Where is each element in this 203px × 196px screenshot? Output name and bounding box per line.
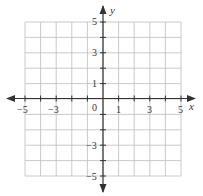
y-tick-label-neg3: −3 bbox=[86, 140, 97, 151]
y-axis-up-arrow-icon bbox=[100, 5, 107, 14]
x-tick-label-3: 3 bbox=[147, 104, 152, 115]
x-axis-left-arrow-icon bbox=[6, 95, 15, 102]
x-axis-label: x bbox=[188, 100, 194, 112]
y-tick-label-1: 1 bbox=[92, 78, 97, 89]
x-tick-label-1: 1 bbox=[116, 104, 121, 115]
y-axis-label: y bbox=[109, 4, 115, 16]
y-tick-label-5: 5 bbox=[92, 16, 97, 27]
coordinate-plane: y x 0 −5 −3 1 3 5 5 3 1 −3 −5 bbox=[0, 0, 203, 196]
y-tick-label-neg5: −5 bbox=[86, 171, 97, 182]
x-tick-label-5: 5 bbox=[178, 104, 183, 115]
y-axis-down-arrow-icon bbox=[100, 184, 107, 193]
x-tick-label-neg5: −5 bbox=[17, 104, 28, 115]
y-tick-label-3: 3 bbox=[92, 47, 97, 58]
origin-label: 0 bbox=[92, 102, 97, 113]
x-tick-label-neg3: −3 bbox=[48, 104, 59, 115]
